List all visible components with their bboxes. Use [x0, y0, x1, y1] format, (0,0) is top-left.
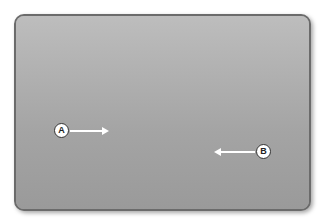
label-a: A	[54, 123, 69, 138]
label-b: B	[256, 144, 271, 159]
arrow-head-left-icon	[214, 148, 221, 156]
clinical-photo-placeholder	[16, 16, 309, 209]
arrow-head-right-icon	[102, 127, 109, 135]
arrow-a	[70, 130, 104, 132]
arrow-b	[220, 151, 255, 153]
figure-frame: A B	[14, 14, 311, 211]
